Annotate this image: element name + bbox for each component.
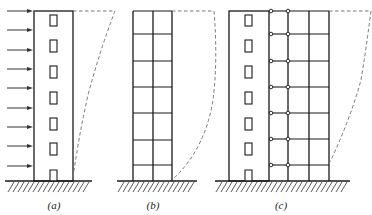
arrow-icon	[7, 106, 33, 110]
hinged-links	[269, 9, 290, 167]
arrow-icon	[7, 48, 33, 52]
arrow-icon	[7, 144, 33, 148]
deflection-curve-shear	[172, 11, 216, 180]
lateral-load-arrows	[7, 9, 33, 168]
arrow-icon	[7, 28, 33, 32]
frame	[288, 11, 329, 181]
wall-windows	[245, 15, 252, 181]
panel-label-b: (b)	[133, 199, 173, 211]
panel-b	[117, 11, 216, 192]
panel-a	[5, 9, 115, 192]
deflection-curve-bending-shear	[329, 11, 371, 162]
arrow-icon	[7, 125, 33, 129]
panel-label-a: (a)	[34, 199, 74, 211]
frame	[133, 11, 172, 181]
ground-hatch	[117, 181, 197, 192]
ground-hatch	[5, 181, 92, 192]
panel-c	[215, 9, 371, 192]
wall-windows	[50, 15, 57, 181]
structure-deformation-diagram	[0, 0, 372, 215]
deflection-curve-bending	[73, 11, 115, 178]
ground-hatch	[215, 181, 350, 192]
arrow-icon	[7, 9, 33, 13]
arrow-icon	[7, 164, 33, 168]
panel-label-c: (c)	[261, 199, 301, 211]
door	[50, 170, 57, 181]
arrow-icon	[7, 86, 33, 90]
arrow-icon	[7, 67, 33, 71]
door	[245, 170, 252, 181]
